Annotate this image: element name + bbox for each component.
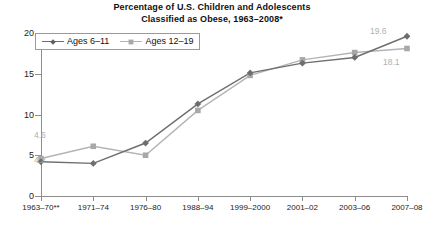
- data-point: [90, 160, 97, 167]
- annotation-4-2: 4.2: [34, 156, 46, 165]
- data-point: [90, 143, 96, 149]
- data-point: [404, 33, 411, 40]
- annotation-19-6: 19.6: [370, 27, 387, 36]
- series-canvas: [0, 0, 424, 226]
- obesity-line-chart: Percentage of U.S. Children and Adolesce…: [0, 0, 424, 226]
- points-ages-12-19: [38, 46, 410, 162]
- data-point: [195, 108, 201, 114]
- data-point: [143, 152, 149, 158]
- line-ages-12-19: [41, 48, 407, 158]
- annotation-4-6: 4.6: [34, 131, 46, 140]
- data-point: [404, 46, 410, 52]
- annotation-18-1: 18.1: [383, 58, 400, 67]
